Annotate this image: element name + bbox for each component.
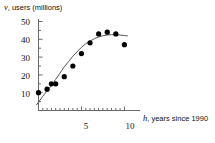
y-axis-ticks (39, 22, 43, 102)
data-point (96, 31, 101, 36)
data-point-group (36, 30, 127, 96)
data-point (122, 42, 127, 47)
data-point (87, 40, 92, 45)
data-point (53, 81, 58, 86)
data-point (105, 30, 110, 35)
data-point (44, 87, 49, 92)
axes (38, 19, 140, 111)
data-point (62, 74, 67, 79)
x-axis-ticks (39, 107, 125, 111)
data-point (70, 63, 75, 68)
fitted-curve (36, 35, 128, 105)
plot-area (0, 0, 215, 143)
data-point (36, 90, 41, 95)
data-point (113, 31, 118, 36)
data-point (79, 51, 84, 56)
chart-figure: v, users (millions) h, years since 1990 … (0, 0, 215, 143)
